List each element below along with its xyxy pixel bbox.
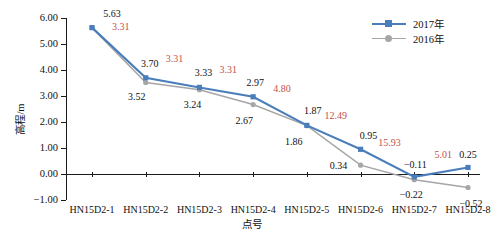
series-marker [251, 102, 256, 107]
series-marker [304, 123, 309, 128]
data-point-label: 0.95 [360, 131, 378, 141]
series-marker [465, 185, 470, 190]
chart-legend: 2017年2016年 [372, 16, 444, 46]
data-point-label: 3.24 [184, 100, 202, 110]
series-marker [143, 75, 148, 80]
elevation-line-chart: 高程/m 6.005.004.003.002.001.000.00−1.00 H… [0, 0, 504, 238]
data-point-label: −0.52 [459, 199, 482, 209]
y-tick-label: 0.00 [40, 169, 58, 180]
series-marker [197, 85, 202, 90]
x-tick-label: HN15D2-2 [123, 204, 168, 215]
difference-label: 12.49 [324, 111, 347, 121]
difference-label: 5.01 [434, 150, 452, 160]
y-axis-title: 高程/m [12, 103, 27, 134]
legend-swatch-icon [372, 34, 406, 44]
legend-item[interactable]: 2016年 [372, 31, 444, 46]
data-point-label: 5.63 [103, 9, 121, 19]
series-marker [358, 163, 363, 168]
difference-label: 3.31 [112, 22, 130, 32]
y-tick-label: 3.00 [40, 91, 58, 102]
y-tick-label: 4.00 [40, 65, 58, 76]
series-marker [358, 147, 363, 152]
x-tick-label: HN15D2-1 [70, 204, 115, 215]
data-point-label: 3.52 [128, 92, 146, 102]
x-tick-label: HN15D2-6 [338, 204, 383, 215]
data-point-label: 1.87 [304, 106, 322, 116]
data-point-label: −0.11 [404, 160, 427, 170]
x-tick-label: HN15D2-4 [231, 204, 276, 215]
x-tick-label: HN15D2-5 [284, 204, 329, 215]
series-marker [412, 174, 417, 179]
x-tick-label: HN15D2-7 [392, 204, 437, 215]
data-point-label: 0.34 [330, 161, 348, 171]
data-point-label: 2.97 [246, 78, 264, 88]
y-tick-label: 5.00 [40, 39, 58, 50]
difference-label: 15.93 [378, 138, 401, 148]
data-point-label: 2.67 [235, 116, 253, 126]
x-tick-label: HN15D2-3 [177, 204, 222, 215]
legend-item[interactable]: 2017年 [372, 16, 444, 31]
data-point-label: 0.25 [459, 150, 477, 160]
y-tick-mark [61, 200, 66, 201]
data-point-label: 3.33 [195, 68, 213, 78]
legend-label: 2016年 [413, 31, 444, 46]
difference-label: 3.31 [166, 54, 184, 64]
data-point-label: 1.86 [285, 137, 303, 147]
y-tick-label: 6.00 [40, 13, 58, 24]
data-point-label: 3.70 [141, 59, 159, 69]
y-tick-label: 2.00 [40, 117, 58, 128]
data-point-label: −0.22 [400, 190, 423, 200]
legend-swatch-icon [372, 19, 406, 29]
y-tick-label: −1.00 [34, 195, 58, 206]
legend-label: 2017年 [413, 16, 444, 31]
series-marker [143, 80, 148, 85]
series-marker [89, 25, 94, 30]
x-axis-title: 点号 [0, 216, 504, 231]
series-line [92, 28, 468, 177]
difference-label: 4.80 [273, 84, 291, 94]
series-marker [251, 94, 256, 99]
difference-label: 3.31 [220, 65, 238, 75]
y-tick-label: 1.00 [40, 143, 58, 154]
series-marker [465, 165, 470, 170]
